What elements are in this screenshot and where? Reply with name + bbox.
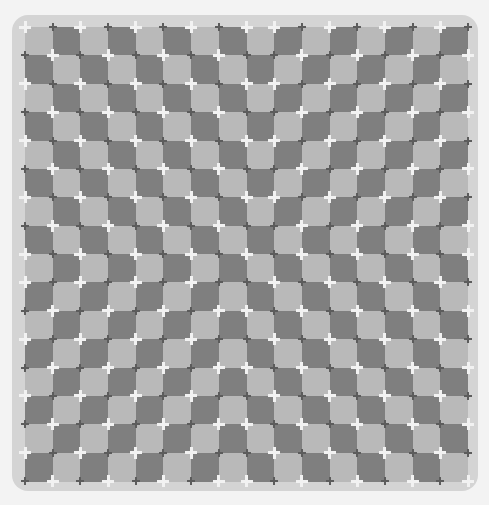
checker-square bbox=[385, 226, 413, 255]
checker-square bbox=[357, 424, 385, 453]
checker-square bbox=[247, 254, 275, 283]
checker-square bbox=[219, 368, 247, 397]
checker-square bbox=[80, 424, 108, 453]
checker-square bbox=[219, 197, 247, 226]
checker-square bbox=[191, 55, 219, 84]
checker-square bbox=[357, 141, 385, 170]
checker-square bbox=[163, 27, 191, 56]
checker-square bbox=[108, 141, 136, 170]
checker-square bbox=[191, 226, 219, 255]
checker-square bbox=[330, 396, 358, 425]
checker-square bbox=[385, 453, 413, 482]
checker-square bbox=[385, 141, 413, 170]
checker-square bbox=[108, 311, 136, 340]
checker-square bbox=[413, 27, 441, 56]
checker-square bbox=[357, 396, 385, 425]
checker-square bbox=[413, 311, 441, 340]
checker-square bbox=[219, 311, 247, 340]
checker-square bbox=[302, 226, 330, 255]
checker-square bbox=[385, 197, 413, 226]
checker-square bbox=[330, 55, 358, 84]
checker-square bbox=[53, 27, 81, 56]
checker-square bbox=[219, 27, 247, 56]
checker-square bbox=[136, 311, 164, 340]
checker-square bbox=[191, 311, 219, 340]
checker-square bbox=[274, 84, 302, 113]
checker-square bbox=[25, 226, 53, 255]
checker-square bbox=[80, 27, 108, 56]
checker-square bbox=[108, 27, 136, 56]
checker-square bbox=[440, 254, 468, 283]
checker-square bbox=[274, 55, 302, 84]
checker-square bbox=[53, 141, 81, 170]
checker-square bbox=[413, 84, 441, 113]
checker-square bbox=[440, 197, 468, 226]
checker-square bbox=[385, 169, 413, 198]
checker-square bbox=[330, 282, 358, 311]
checker-square bbox=[191, 169, 219, 198]
checker-square bbox=[163, 169, 191, 198]
checker-square bbox=[274, 112, 302, 141]
checker-square bbox=[136, 84, 164, 113]
checker-square bbox=[219, 55, 247, 84]
checker-square bbox=[247, 226, 275, 255]
checker-square bbox=[219, 112, 247, 141]
checker-square bbox=[274, 282, 302, 311]
checker-square bbox=[108, 339, 136, 368]
checker-square bbox=[136, 55, 164, 84]
checker-square bbox=[247, 424, 275, 453]
checker-square bbox=[274, 396, 302, 425]
checker-square bbox=[25, 112, 53, 141]
checker-square bbox=[302, 55, 330, 84]
checker-square bbox=[53, 84, 81, 113]
checker-square bbox=[274, 424, 302, 453]
checker-square bbox=[274, 453, 302, 482]
checker-square bbox=[302, 112, 330, 141]
checker-square bbox=[247, 368, 275, 397]
checker-square bbox=[136, 169, 164, 198]
checker-square bbox=[25, 27, 53, 56]
checker-square bbox=[302, 453, 330, 482]
checker-square bbox=[440, 27, 468, 56]
checker-square bbox=[219, 141, 247, 170]
checker-square bbox=[219, 339, 247, 368]
checker-square bbox=[80, 112, 108, 141]
checker-square bbox=[357, 55, 385, 84]
checker-square bbox=[440, 339, 468, 368]
checker-square bbox=[357, 368, 385, 397]
checker-square bbox=[80, 254, 108, 283]
checker-square bbox=[53, 112, 81, 141]
checker-square bbox=[440, 311, 468, 340]
checker-square bbox=[219, 453, 247, 482]
checker-square bbox=[53, 254, 81, 283]
checker-square bbox=[136, 254, 164, 283]
checker-square bbox=[274, 197, 302, 226]
checker-square bbox=[80, 169, 108, 198]
checker-square bbox=[163, 84, 191, 113]
checker-square bbox=[80, 282, 108, 311]
checker-square bbox=[247, 112, 275, 141]
checker-square bbox=[163, 453, 191, 482]
checker-square bbox=[191, 197, 219, 226]
checker-square bbox=[440, 55, 468, 84]
checker-square bbox=[330, 27, 358, 56]
checker-square bbox=[191, 282, 219, 311]
checker-square bbox=[53, 226, 81, 255]
checker-square bbox=[247, 311, 275, 340]
checker-square bbox=[440, 424, 468, 453]
checker-square bbox=[357, 84, 385, 113]
checker-square bbox=[274, 311, 302, 340]
checker-square bbox=[163, 424, 191, 453]
checker-square bbox=[385, 339, 413, 368]
checker-square bbox=[247, 282, 275, 311]
checker-square bbox=[25, 169, 53, 198]
checker-square bbox=[274, 141, 302, 170]
checker-square bbox=[302, 27, 330, 56]
checker-square bbox=[302, 84, 330, 113]
checker-square bbox=[274, 339, 302, 368]
checker-square bbox=[53, 311, 81, 340]
checker-square bbox=[440, 84, 468, 113]
checker-square bbox=[330, 112, 358, 141]
checker-square bbox=[80, 197, 108, 226]
checker-square bbox=[136, 424, 164, 453]
